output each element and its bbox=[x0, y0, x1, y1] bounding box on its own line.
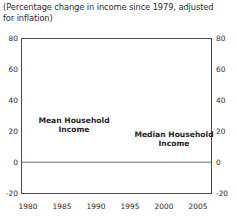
x-axis-tick-label: 1980 bbox=[19, 203, 38, 210]
x-axis-tick-label: 1985 bbox=[53, 203, 72, 210]
chart-figure: (Percentage change in income since 1979,… bbox=[0, 0, 237, 221]
x-axis-tick-label: 1990 bbox=[87, 203, 106, 210]
x-axis-tick-label: 1995 bbox=[121, 203, 140, 210]
y-axis-tick-label-left: 80 bbox=[0, 35, 18, 42]
y-axis-tick-label-left: 0 bbox=[0, 159, 18, 166]
y-axis-tick-label-right: 20 bbox=[216, 128, 236, 135]
y-axis-tick-label-right: 80 bbox=[216, 35, 236, 42]
y-axis-tick-label-left: 20 bbox=[0, 128, 18, 135]
x-axis-tick-label: 2000 bbox=[155, 203, 174, 210]
y-axis-tick-label-right: -20 bbox=[216, 190, 236, 197]
y-axis-tick-label-left: 40 bbox=[0, 97, 18, 104]
y-axis-tick-label-left: 60 bbox=[0, 66, 18, 73]
median-household-income-label: Median Household Income bbox=[134, 131, 214, 148]
chart-title: (Percentage change in income since 1979,… bbox=[3, 2, 218, 23]
mean-household-income-label: Mean Household Income bbox=[37, 117, 111, 134]
y-axis-tick-label-right: 0 bbox=[216, 159, 236, 166]
x-axis-tick-label: 2005 bbox=[189, 203, 208, 210]
y-axis-tick-label-right: 60 bbox=[216, 66, 236, 73]
y-axis-tick-label-left: -20 bbox=[0, 190, 18, 197]
y-axis-tick-label-right: 40 bbox=[216, 97, 236, 104]
